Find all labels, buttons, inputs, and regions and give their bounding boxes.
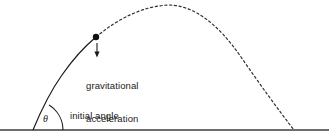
projectile-dot-icon bbox=[93, 34, 99, 40]
angle-arc bbox=[49, 105, 63, 130]
gravity-arrow-icon bbox=[94, 43, 99, 58]
theta-symbol-label: θ bbox=[43, 113, 48, 124]
initial-angle-label: initial angle bbox=[70, 110, 119, 121]
gravitational-acceleration-label: gravitational acceleration bbox=[86, 58, 139, 136]
diagram-canvas bbox=[0, 0, 329, 136]
gravitational-label-line1: gravitational bbox=[86, 80, 139, 91]
projectile-motion-diagram: gravitational acceleration initial angle… bbox=[0, 0, 329, 136]
